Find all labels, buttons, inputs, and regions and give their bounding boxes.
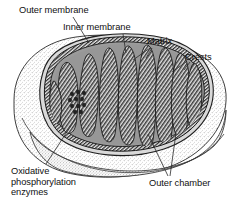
label-outer-chamber: Outer chamber (149, 178, 210, 189)
crista (137, 45, 156, 147)
label-oxidative-phosphorylation-enzymes: Oxidative phosphorylation enzymes (11, 166, 76, 198)
crista (118, 46, 137, 145)
label-matrix: Matrix (147, 36, 172, 47)
label-crests: Crests (185, 52, 212, 63)
mitochondrion-diagram: Outer membrane Inner membrane Matrix Cre… (0, 0, 234, 211)
label-outer-membrane: Outer membrane (19, 5, 89, 16)
label-inner-membrane: Inner membrane (63, 22, 131, 33)
